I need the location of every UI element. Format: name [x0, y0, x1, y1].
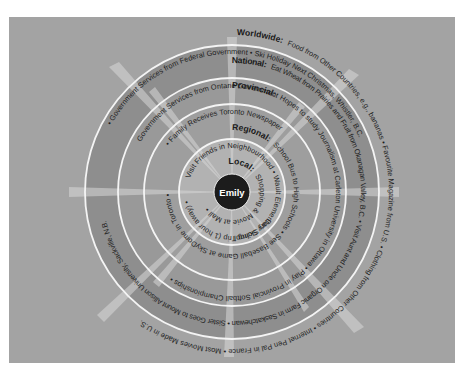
worldwide-label: Worldwide: [237, 27, 285, 45]
center-label: Emily [219, 187, 245, 198]
diagram-panel: Emily Worldwide: Food from Other Countri… [9, 17, 455, 363]
concentric-circles-diagram: Emily Worldwide: Food from Other Countri… [9, 17, 455, 363]
